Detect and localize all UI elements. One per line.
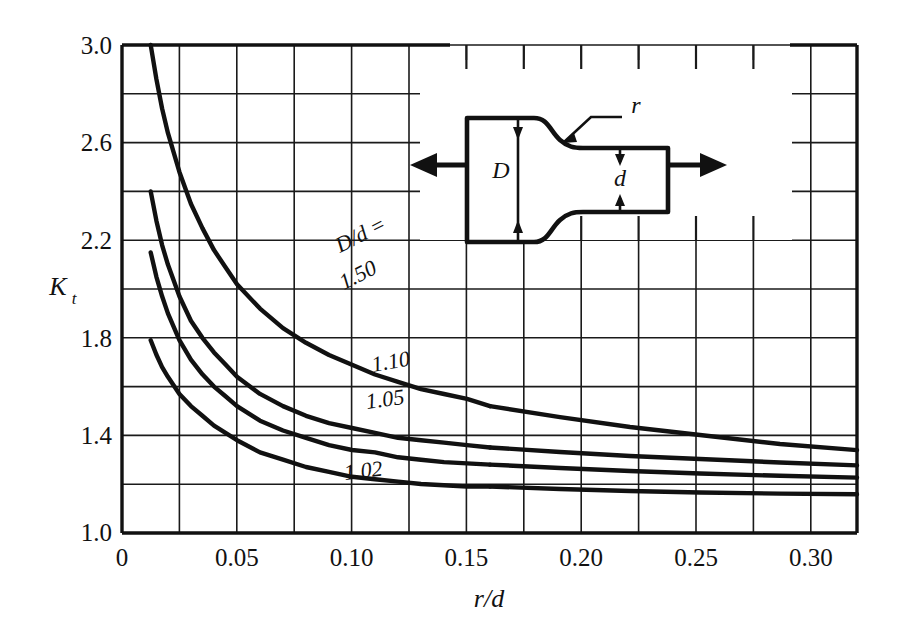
- chart-curve-tails: [490, 406, 857, 494]
- y-tick-label: 2.6: [81, 129, 112, 156]
- curve-dd-1-02: [151, 340, 490, 486]
- y-axis-title-subscript: t: [72, 289, 78, 308]
- curve-dd-1-05-tail: [490, 465, 857, 478]
- curve-dd-1-50-tail: [490, 406, 857, 450]
- y-tick-label: 1.8: [81, 325, 112, 352]
- x-tick-label: 0.30: [789, 544, 833, 571]
- figure-root: 3.0 2.6 2.2 1.8 1.4 1.0 K t 0 0.05 0.10 …: [0, 0, 904, 620]
- curve-label-1-10: 1.10: [370, 346, 412, 377]
- x-axis-title: r/d: [474, 584, 505, 613]
- curve-dd-1-05: [151, 252, 490, 464]
- diagram-label-D: D: [491, 157, 509, 183]
- x-tick-label: 0: [116, 544, 129, 571]
- y-axis-title-base: K: [48, 272, 68, 301]
- x-axis-tick-labels: 0 0.05 0.10 0.15 0.20 0.25 0.30: [116, 544, 833, 571]
- x-tick-label: 0.05: [215, 544, 259, 571]
- curve-label-prefix: D/d =: [330, 211, 390, 258]
- curve-series-labels: D/d = 1.50 1.10 1.05 1.02: [330, 211, 412, 485]
- curve-dd-1-10-tail: [490, 448, 857, 466]
- curve-label-1-05: 1.05: [364, 384, 406, 414]
- y-axis-tick-labels: 3.0 2.6 2.2 1.8 1.4 1.0: [81, 32, 113, 546]
- y-tick-label: 1.4: [81, 422, 113, 449]
- y-tick-label: 3.0: [81, 32, 112, 59]
- x-tick-label: 0.20: [559, 544, 603, 571]
- x-tick-label: 0.15: [445, 544, 489, 571]
- curve-dd-1-02-tail: [490, 487, 857, 495]
- y-tick-label: 1.0: [81, 519, 112, 546]
- diagram-label-d: d: [614, 165, 627, 191]
- diagram-label-r: r: [631, 92, 641, 118]
- y-tick-label: 2.2: [81, 227, 112, 254]
- y-axis-title: K t: [48, 272, 77, 308]
- x-tick-label: 0.10: [330, 544, 374, 571]
- stress-concentration-chart: 3.0 2.6 2.2 1.8 1.4 1.0 K t 0 0.05 0.10 …: [0, 0, 904, 620]
- curve-label-1-02: 1.02: [343, 455, 384, 485]
- x-tick-label: 0.25: [674, 544, 718, 571]
